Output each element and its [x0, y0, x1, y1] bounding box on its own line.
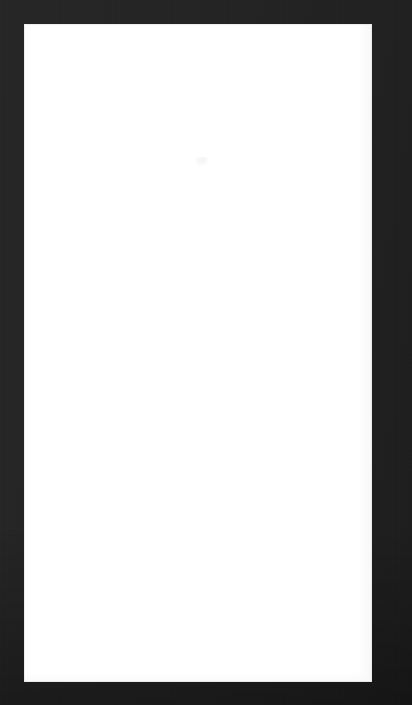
screen-root: [0, 0, 412, 705]
content-panel[interactable]: [24, 24, 372, 682]
content-panel-body: [24, 24, 372, 682]
